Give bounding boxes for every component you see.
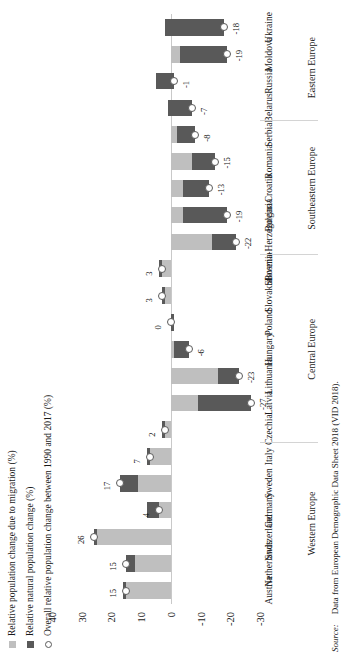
- data-value-label: 26: [76, 535, 86, 544]
- data-value-label: 3: [144, 298, 154, 302]
- bar-group: 4: [52, 497, 260, 524]
- bar-migration: [171, 395, 198, 412]
- group-label: Eastern Europe: [306, 37, 317, 98]
- data-value-label: 17: [102, 482, 112, 491]
- data-value-label: -1: [181, 81, 191, 88]
- axis-tick-label: 30: [76, 612, 87, 623]
- category-label: Serbia: [264, 123, 274, 147]
- overall-change-marker: [170, 77, 178, 85]
- bar-group: -18: [52, 14, 260, 41]
- category-label: Belarus: [264, 93, 274, 122]
- group-labels: Western EuropeCentral EuropeSoutheastern…: [306, 14, 326, 604]
- bar-group: -7: [52, 94, 260, 121]
- bar-group: 17: [52, 470, 260, 497]
- chart-legend: Relative population change due to migrat…: [4, 395, 58, 648]
- legend-label-natural: Relative natural population change (%): [25, 487, 36, 636]
- axis-tick-label: 10: [136, 612, 147, 623]
- axis-tick-label: 20: [106, 612, 117, 623]
- bar-group: -13: [52, 175, 260, 202]
- bar-natural: [198, 395, 251, 412]
- group-label: Western Europe: [306, 492, 317, 556]
- category-label: Poland: [264, 309, 274, 335]
- bar-group: -6: [52, 336, 260, 363]
- overall-change-marker: [232, 238, 240, 246]
- data-value-label: -19: [234, 50, 244, 61]
- bar-migration: [135, 555, 171, 572]
- category-label: Ukraine: [264, 12, 274, 43]
- axis-tick-label: 0: [165, 612, 176, 617]
- overall-change-marker: [223, 50, 231, 58]
- bar-group: 3: [52, 255, 260, 282]
- group-label: Central Europe: [306, 319, 317, 380]
- bar-migration: [171, 153, 192, 170]
- bar-group: -8: [52, 121, 260, 148]
- group-label: Southeastern Europe: [306, 147, 317, 230]
- overall-change-marker: [146, 453, 154, 461]
- bar-natural: [183, 207, 228, 224]
- overall-change-marker: [223, 211, 231, 219]
- data-value-label: -13: [216, 184, 226, 195]
- bar-group: -1: [52, 68, 260, 95]
- chart-figure: Relative population change due to migrat…: [0, 0, 351, 662]
- category-label: Latvia: [264, 391, 274, 415]
- source-text: Data from European Demographic Data Shee…: [330, 381, 340, 614]
- rotated-figure-wrapper: Relative population change due to migrat…: [0, 0, 351, 662]
- legend-label-migration: Relative population change due to migrat…: [7, 450, 18, 636]
- data-value-label: -22: [243, 238, 253, 249]
- bar-group: -19: [52, 41, 260, 68]
- source-label: Source:: [330, 624, 340, 652]
- bar-migration: [171, 207, 183, 224]
- bar-migration: [171, 180, 183, 197]
- legend-swatch-natural-icon: [27, 641, 34, 648]
- group-separator: [260, 120, 318, 121]
- bar-migration: [97, 529, 171, 546]
- data-value-label: 2: [147, 432, 157, 436]
- overall-change-marker: [188, 104, 196, 112]
- overall-change-marker: [205, 184, 213, 192]
- bar-group: 15: [52, 577, 260, 604]
- axis-tick-label: -10: [195, 612, 206, 626]
- bar-group: -23: [52, 363, 260, 390]
- plot-area: 15152641772-27-23-6033-22-19-13-15-8-7-1…: [52, 14, 260, 604]
- bar-migration: [171, 46, 180, 63]
- data-value-label: 15: [108, 589, 118, 598]
- axis-tick-label: -30: [255, 612, 266, 626]
- bar-group: -19: [52, 202, 260, 229]
- data-value-label: 7: [132, 459, 142, 463]
- category-label: Bulgaria: [264, 199, 274, 232]
- bar-migration: [138, 475, 171, 492]
- bar-group: -22: [52, 229, 260, 256]
- bar-migration: [171, 368, 219, 385]
- overall-change-marker: [211, 158, 219, 166]
- bar-group: 15: [52, 550, 260, 577]
- overall-change-marker: [158, 292, 166, 300]
- legend-circle-overall-icon: [45, 641, 52, 648]
- bar-group: 0: [52, 309, 260, 336]
- data-value-label: -19: [234, 211, 244, 222]
- legend-item-migration: Relative population change due to migrat…: [4, 395, 20, 648]
- category-label: Czechia: [264, 414, 274, 445]
- data-value-label: -18: [231, 23, 241, 34]
- axis-tick-label: -20: [225, 612, 236, 626]
- overall-change-marker: [90, 533, 98, 541]
- data-value-label: -23: [246, 372, 256, 383]
- category-label: Hungary: [264, 333, 274, 366]
- data-value-label: 15: [108, 562, 118, 571]
- category-axis-labels: AustriaNetherlandsSwitzerlandGermanySwed…: [264, 14, 312, 604]
- bar-group: 26: [52, 524, 260, 551]
- axis-tick-label: 40: [47, 612, 58, 623]
- data-value-label: -7: [199, 108, 209, 115]
- bar-natural: [180, 46, 228, 63]
- data-value-label: 0: [153, 325, 163, 329]
- bar-group: 7: [52, 443, 260, 470]
- group-separator: [260, 442, 318, 443]
- data-value-label: -8: [202, 135, 212, 142]
- bar-group: -27: [52, 389, 260, 416]
- legend-item-natural: Relative natural population change (%): [22, 395, 38, 648]
- bar-group: 3: [52, 282, 260, 309]
- overall-change-marker: [161, 426, 169, 434]
- bar-migration: [171, 234, 213, 251]
- overall-change-marker: [220, 23, 228, 31]
- category-label: Italy: [264, 448, 274, 465]
- legend-swatch-migration-icon: [9, 641, 16, 648]
